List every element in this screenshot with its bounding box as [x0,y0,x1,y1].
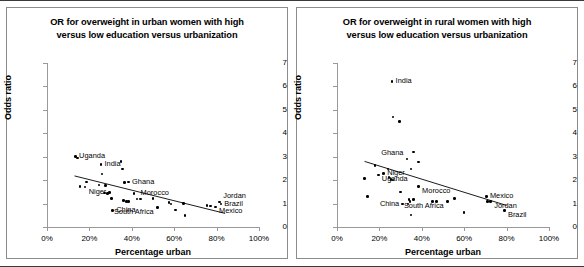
data-point [410,168,413,171]
y-tick-label: 0 [547,222,577,231]
data-point [152,197,155,200]
data-point [220,203,223,206]
y-tick-label: 4 [547,128,577,137]
data-point [79,185,82,188]
x-tick-label: 60% [447,234,481,243]
y-tick-label: 6 [547,81,577,90]
y-tick-label: 3 [257,152,287,161]
data-point [206,204,209,207]
data-point-label: Mexico [490,192,513,200]
data-point-label: India [396,77,412,85]
data-point [363,177,366,180]
x-tick-label: 40% [405,234,439,243]
x-axis-line [337,227,549,228]
y-axis-title: Odds ratio [3,75,13,120]
data-point [392,116,395,119]
x-tick-mark [259,227,260,231]
data-point-label: Brazil [508,211,526,219]
data-point [417,161,420,164]
data-point-label: India [105,160,121,168]
y-tick-label: 0 [257,222,287,231]
data-point-label: South Africa [114,208,154,216]
data-point [412,151,415,154]
data-point [100,163,103,166]
y-tick-label: 7 [257,58,287,67]
x-tick-mark [132,227,133,231]
data-point [410,214,413,217]
data-point [417,185,420,188]
x-tick-label: 0% [320,234,354,243]
data-point [398,120,401,123]
plot-wrap-rural: Odds ratio Percentage urban 012345670%20… [297,8,577,258]
data-point [377,174,380,177]
data-point-label: Ghana [132,178,154,186]
y-tick-label: 2 [257,175,287,184]
y-tick-label: 6 [257,81,287,90]
x-tick-label: 80% [490,234,524,243]
data-point [120,160,123,163]
data-point [139,198,142,201]
data-point [101,173,104,176]
data-point [170,203,173,206]
x-tick-mark [217,227,218,231]
data-point [98,184,101,187]
data-point-label: Ghana [381,149,403,157]
data-point [366,195,369,198]
data-point [391,80,394,83]
y-tick-label: 3 [547,152,577,161]
data-point [133,192,136,195]
x-tick-mark [422,227,423,231]
chart-panel-urban: OR for overweight in urban women with hi… [6,7,288,259]
data-point [406,158,409,161]
data-point [123,181,126,184]
data-point-label: China [380,200,399,208]
x-tick-label: 40% [115,234,149,243]
plot-area-urban: UgandaNigerIndiaChinaGhanaMoroccoSouth A… [47,63,259,227]
data-point [374,164,377,167]
data-point [503,209,506,212]
x-tick-label: 20% [72,234,106,243]
y-axis-title: Odds ratio [293,75,303,120]
data-point [485,195,488,198]
y-tick-label: 4 [257,128,287,137]
data-point [84,186,87,189]
y-tick-label: 5 [547,105,577,114]
data-point-label: South Africa [404,202,444,210]
plot-area-rural: IndiaUgandaNigerGhanaChinaMoroccoSouth A… [337,63,549,227]
x-tick-mark [507,227,508,231]
data-point-label: Mexico [219,207,242,215]
data-point [182,202,185,205]
y-tick-label: 2 [547,175,577,184]
data-point [136,198,139,201]
data-point [121,168,124,171]
x-tick-label: 100% [242,234,276,243]
y-tick-label: 1 [257,199,287,208]
data-point [446,200,449,203]
x-axis-line [47,227,259,228]
chart-panel-rural: OR for overweight in rural women with hi… [296,7,578,259]
x-tick-label: 0% [30,234,64,243]
data-point [214,206,217,209]
data-point [156,206,159,209]
data-point [127,200,130,203]
y-tick-label: 7 [547,58,577,67]
data-point [174,209,177,212]
figure-container: OR for overweight in urban women with hi… [0,0,584,267]
x-tick-label: 80% [200,234,234,243]
x-tick-mark [174,227,175,231]
x-tick-mark [379,227,380,231]
x-tick-mark [337,227,338,231]
x-tick-label: 20% [362,234,396,243]
data-point [104,184,107,187]
x-tick-mark [47,227,48,231]
data-point [108,191,111,194]
data-point [184,214,187,217]
x-tick-mark [89,227,90,231]
y-tick-label: 5 [257,105,287,114]
x-axis-title: Percentage urban [337,247,549,257]
data-point-label: Brazil [224,200,242,208]
data-point [382,172,385,175]
x-tick-label: 60% [157,234,191,243]
y-tick-label: 1 [547,199,577,208]
data-point [399,191,402,194]
